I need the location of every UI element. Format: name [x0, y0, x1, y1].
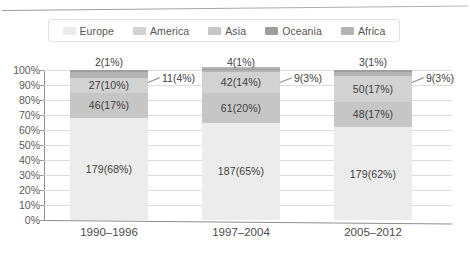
bar-segment-europe[interactable]: 179(68%): [70, 118, 148, 220]
bar-above-label-oceania: 4(1%): [227, 56, 255, 68]
bar-segment-america[interactable]: 27(10%): [70, 78, 148, 93]
legend-item-africa[interactable]: Africa: [341, 25, 385, 37]
x-axis-label-1990-1996: 1990–1996: [80, 226, 138, 238]
chart-legend: Europe America Asia Oceania Africa: [48, 19, 400, 42]
bar-callout-label-africa: 9(3%): [426, 72, 454, 84]
bar-segment-africa[interactable]: [70, 72, 148, 78]
bar-segment-africa[interactable]: [334, 72, 412, 77]
bar-segment-europe[interactable]: 187(65%): [202, 123, 280, 221]
bar-callout-label-africa: 9(3%): [294, 72, 322, 84]
bar-segment-label-europe: 179(68%): [86, 163, 132, 175]
y-tick-mark-40: [40, 160, 44, 161]
legend-item-europe[interactable]: Europe: [63, 25, 114, 37]
bar-segment-label-america: 27(10%): [89, 79, 129, 91]
y-tick-mark-70: [40, 115, 44, 116]
bar-segment-label-europe: 187(65%): [218, 165, 264, 177]
y-tick-label-80: 80%: [19, 94, 40, 106]
bar-segment-label-asia: 46(17%): [89, 99, 129, 111]
top-divider-rule: [2, 6, 468, 11]
bar-segment-oceania[interactable]: [202, 69, 280, 71]
y-tick-mark-90: [40, 85, 44, 86]
y-tick-label-60: 60%: [19, 124, 40, 136]
bar-segment-label-america: 42(14%): [221, 76, 261, 88]
y-tick-label-50: 50%: [19, 139, 40, 151]
bar-segment-america[interactable]: 42(14%): [202, 72, 280, 93]
x-axis-label-2005-2012: 2005–2012: [344, 226, 402, 238]
bar-above-label-oceania: 3(1%): [359, 56, 387, 68]
bar-segment-oceania[interactable]: [70, 70, 148, 72]
bar-callout-label-africa: 11(4%): [162, 72, 195, 84]
plot-area: 100% 90% 80% 70% 60% 50% 40% 30% 20% 10%…: [44, 70, 452, 220]
x-axis-line: [44, 220, 452, 225]
y-tick-mark-30: [40, 175, 44, 176]
bar-segment-label-europe: 179(62%): [350, 168, 396, 180]
legend-swatch-africa: [341, 27, 354, 35]
x-axis-label-1997-2004: 1997–2004: [212, 226, 270, 238]
y-tick-label-30: 30%: [19, 169, 40, 181]
bar-column-1997-2004[interactable]: 187(65%) 61(20%) 42(14%) 4(1%) 9(3%) 199…: [202, 70, 280, 220]
bar-segment-asia[interactable]: 48(17%): [334, 102, 412, 128]
bar-segment-oceania[interactable]: [334, 70, 412, 72]
bar-column-1990-1996[interactable]: 179(68%) 46(17%) 27(10%) 2(1%) 11(4%) 19…: [70, 70, 148, 220]
legend-label-asia: Asia: [225, 25, 246, 37]
y-tick-mark-100: [40, 70, 44, 71]
bar-segment-asia[interactable]: 46(17%): [70, 93, 148, 119]
y-tick-mark-0: [40, 220, 44, 221]
y-tick-label-20: 20%: [19, 184, 40, 196]
bar-segment-label-america: 50(17%): [353, 83, 393, 95]
bar-column-2005-2012[interactable]: 179(62%) 48(17%) 50(17%) 3(1%) 9(3%) 200…: [334, 70, 412, 220]
y-tick-label-40: 40%: [19, 154, 40, 166]
y-tick-mark-80: [40, 100, 44, 101]
legend-label-europe: Europe: [80, 25, 114, 37]
y-tick-mark-50: [40, 145, 44, 146]
bar-segment-europe[interactable]: 179(62%): [334, 127, 412, 220]
y-tick-label-100: 100%: [13, 64, 40, 76]
legend-swatch-america: [133, 27, 146, 35]
legend-swatch-asia: [208, 27, 221, 35]
y-tick-label-10: 10%: [19, 199, 40, 211]
bar-segment-label-asia: 48(17%): [353, 108, 393, 120]
legend-label-africa: Africa: [358, 25, 385, 37]
bar-segment-america[interactable]: 50(17%): [334, 76, 412, 102]
legend-label-oceania: Oceania: [282, 25, 322, 37]
legend-swatch-europe: [63, 27, 76, 35]
legend-item-america[interactable]: America: [133, 25, 189, 37]
y-tick-mark-10: [40, 205, 44, 206]
legend-item-asia[interactable]: Asia: [208, 25, 246, 37]
chart-figure: Europe America Asia Oceania Africa 100% …: [0, 0, 470, 259]
y-tick-label-0: 0%: [25, 214, 40, 226]
bar-segment-label-asia: 61(20%): [221, 102, 261, 114]
legend-label-america: America: [150, 25, 189, 37]
y-tick-label-70: 70%: [19, 109, 40, 121]
y-tick-mark-60: [40, 130, 44, 131]
bar-segment-asia[interactable]: 61(20%): [202, 93, 280, 123]
legend-item-oceania[interactable]: Oceania: [265, 25, 322, 37]
legend-swatch-oceania: [265, 27, 278, 35]
bar-above-label-oceania: 2(1%): [95, 56, 123, 68]
y-tick-mark-20: [40, 190, 44, 191]
y-tick-label-90: 90%: [19, 79, 40, 91]
